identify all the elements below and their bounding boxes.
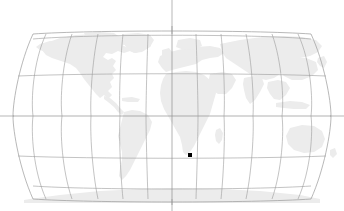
meridian-150w: [32, 34, 46, 199]
land-east-asia: [274, 58, 318, 80]
land-southeast-asia: [267, 80, 290, 100]
land-india: [243, 76, 264, 104]
land-new-zealand: [330, 148, 337, 158]
land-indonesia: [276, 101, 310, 109]
map-boundary-west: [13, 34, 33, 199]
marker-layer[interactable]: [188, 153, 192, 157]
land-arctic-islands: [84, 32, 118, 38]
land-madagascar: [215, 128, 223, 144]
land-central-america: [104, 96, 124, 115]
land-caribbean: [122, 97, 140, 102]
land-japan: [317, 56, 327, 68]
data-point-1[interactable]: [188, 153, 192, 157]
land-australia: [286, 125, 325, 153]
land-africa: [160, 71, 216, 155]
world-map-figure: [0, 0, 344, 211]
map-canvas[interactable]: [0, 0, 344, 211]
landmass-layer: [24, 32, 337, 203]
meridian-60e: [221, 34, 224, 199]
